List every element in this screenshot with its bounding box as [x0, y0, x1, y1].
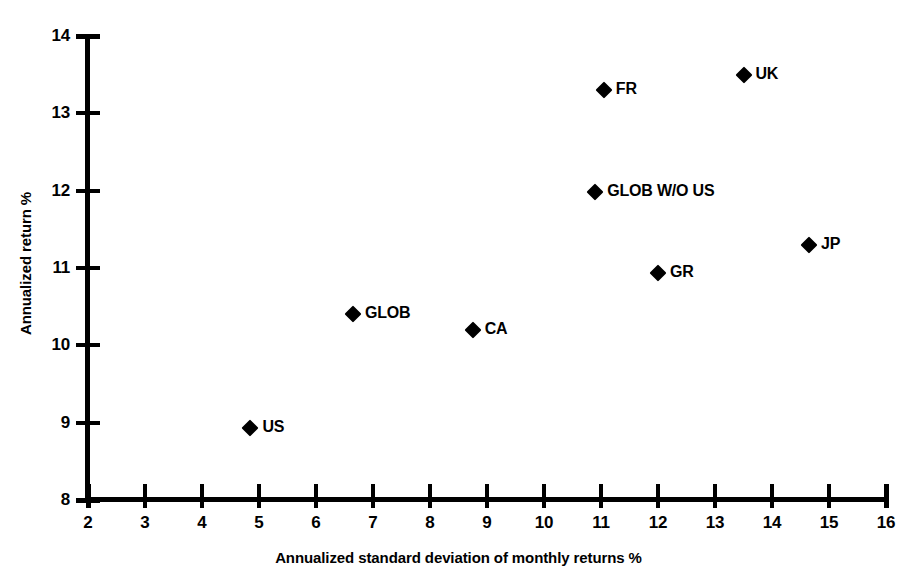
diamond-marker-icon [345, 306, 362, 323]
x-tick-label: 14 [752, 514, 792, 531]
x-tick-label: 9 [467, 514, 507, 531]
x-tick-label: 11 [581, 514, 621, 531]
y-tick-label: 8 [24, 491, 70, 508]
data-point-label: US [262, 419, 284, 435]
data-point-label: GR [670, 264, 694, 280]
data-point-label: GLOB W/O US [607, 183, 714, 199]
x-tick-label: 4 [182, 514, 222, 531]
data-point-label: FR [616, 81, 637, 97]
data-point-label: CA [485, 321, 508, 337]
diamond-marker-icon [650, 265, 667, 282]
x-tick-label: 3 [125, 514, 165, 531]
scatter-chart: 891011121314 2345678910111213141516 USGL… [0, 0, 917, 586]
y-tick-label: 13 [24, 104, 70, 121]
x-tick-label: 13 [695, 514, 735, 531]
data-points-layer: USGLOBCAGLOB W/O USFRGRUKJP [88, 36, 886, 500]
x-tick-label: 10 [524, 514, 564, 531]
y-tick-label: 9 [24, 414, 70, 431]
diamond-marker-icon [464, 321, 481, 338]
data-point-label: UK [756, 66, 779, 82]
x-tick-label: 7 [353, 514, 393, 531]
x-tick-label: 8 [410, 514, 450, 531]
data-point-label: GLOB [365, 305, 410, 321]
diamond-marker-icon [801, 236, 818, 253]
diamond-marker-icon [595, 82, 612, 99]
x-tick-label: 16 [866, 514, 906, 531]
diamond-marker-icon [587, 184, 604, 201]
x-tick-label: 5 [239, 514, 279, 531]
x-tick-label: 15 [809, 514, 849, 531]
x-tick-label: 12 [638, 514, 678, 531]
x-tick-label: 2 [68, 514, 108, 531]
x-axis-title: Annualized standard deviation of monthly… [0, 549, 917, 566]
diamond-marker-icon [735, 66, 752, 83]
y-tick-label: 14 [24, 27, 70, 44]
x-tick-label: 6 [296, 514, 336, 531]
y-axis-title: Annualized return % [17, 134, 34, 394]
diamond-marker-icon [242, 420, 259, 437]
data-point-label: JP [821, 236, 840, 252]
